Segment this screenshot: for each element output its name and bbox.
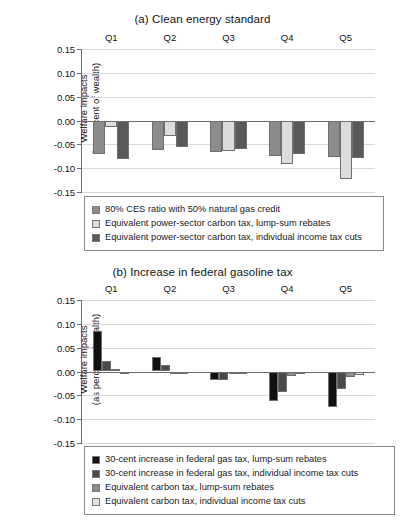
bar [355, 372, 364, 375]
bar [210, 372, 219, 381]
x-axis-category-label-q5: Q5 [339, 32, 352, 43]
bar [328, 121, 340, 157]
bar [164, 121, 176, 137]
gridline [82, 168, 375, 169]
bar [293, 121, 305, 155]
legend-label: 30-cent increase in federal gas tax, ind… [105, 467, 358, 480]
legend-swatch-icon [92, 498, 100, 506]
panel-a-title: (a) Clean energy standard [0, 13, 405, 25]
legend-item: Equivalent carbon tax, lump-sum rebates [92, 481, 387, 494]
y-axis-tick [77, 419, 82, 420]
y-axis-tick [77, 49, 82, 50]
bar [210, 121, 222, 152]
bar [161, 365, 170, 371]
y-axis-tick [77, 395, 82, 396]
legend-label: Equivalent carbon tax, individual income… [105, 495, 306, 508]
bar [117, 121, 129, 159]
bar [93, 121, 105, 154]
y-axis-title-a: Welfare impacts (as percent of wealth) [78, 34, 101, 184]
gridline [82, 192, 375, 193]
y-axis-tick-label: 0.10 [57, 318, 75, 329]
plot-area-panel-a: Welfare impacts (as percent of wealth) 0… [82, 49, 375, 192]
bar [152, 121, 164, 150]
bar [235, 121, 247, 150]
x-axis-category-label-q3: Q3 [222, 283, 235, 294]
legend-panel-a: 80% CES ratio with 50% natural gas credi… [84, 196, 384, 251]
bar [269, 372, 278, 401]
gridline [82, 419, 375, 420]
x-axis-category-label-q5: Q5 [339, 283, 352, 294]
legend-item: 80% CES ratio with 50% natural gas credi… [92, 203, 376, 216]
y-axis-tick [77, 144, 82, 145]
bar [111, 369, 120, 372]
y-axis-tick-label: 0.15 [57, 44, 75, 55]
y-axis-tick-label: 0.05 [57, 91, 75, 102]
bar [340, 121, 352, 179]
y-axis-tick-label: 0.05 [57, 342, 75, 353]
y-axis-tick-label: 0.00 [57, 366, 75, 377]
bar [238, 372, 247, 374]
plot-area-panel-b: Welfare impacts (as percent of wealth) 0… [82, 300, 375, 443]
y-axis-tick-label: 0.15 [57, 295, 75, 306]
bar [105, 121, 117, 127]
y-axis-tick [77, 97, 82, 98]
x-axis-category-label-q3: Q3 [222, 32, 235, 43]
gridline [82, 324, 375, 325]
bar [328, 372, 337, 408]
bar [287, 372, 296, 377]
bar [93, 331, 102, 371]
bar [170, 372, 179, 374]
legend-label: Equivalent carbon tax, lump-sum rebates [105, 481, 274, 494]
y-axis-tick-label: -0.10 [54, 414, 75, 425]
y-axis-tick-label: -0.15 [54, 438, 75, 449]
bar [102, 361, 111, 372]
y-axis-tick [77, 168, 82, 169]
y-axis-tick-label: -0.05 [54, 390, 75, 401]
legend-item: Equivalent power-sector carbon tax, lump… [92, 217, 376, 230]
y-axis-tick [77, 324, 82, 325]
gridline [82, 49, 375, 50]
y-axis-tick [77, 73, 82, 74]
y-axis-tick [77, 300, 82, 301]
bar [222, 121, 234, 151]
bar [179, 372, 188, 374]
x-axis-category-label-q4: Q4 [281, 283, 294, 294]
bar [229, 372, 238, 374]
bar [281, 121, 293, 165]
panel-clean-energy-standard: (a) Clean energy standard Welfare impact… [0, 0, 405, 258]
x-axis-category-label-q1: Q1 [105, 32, 118, 43]
bar [278, 372, 287, 393]
bar [352, 121, 364, 158]
legend-label: Equivalent power-sector carbon tax, lump… [105, 217, 330, 230]
figure-root: { "figure": { "y_axis_title_line1": "Wel… [0, 0, 405, 526]
legend-panel-b: 30-cent increase in federal gas tax, lum… [84, 446, 395, 515]
legend-swatch-icon [92, 206, 100, 214]
y-axis-tick [77, 192, 82, 193]
gridline [82, 348, 375, 349]
x-axis-category-label-q4: Q4 [281, 32, 294, 43]
bar [269, 121, 281, 156]
legend-item: 30-cent increase in federal gas tax, ind… [92, 467, 387, 480]
legend-item: Equivalent power-sector carbon tax, indi… [92, 231, 376, 244]
y-axis-tick [77, 443, 82, 444]
bar [337, 372, 346, 389]
legend-label: 30-cent increase in federal gas tax, lum… [105, 453, 327, 466]
bar [296, 372, 305, 375]
y-axis-tick-label: 0.10 [57, 67, 75, 78]
gridline [82, 73, 375, 74]
bar [176, 121, 188, 147]
legend-swatch-icon [92, 470, 100, 478]
gridline [82, 97, 375, 98]
legend-label: Equivalent power-sector carbon tax, indi… [105, 231, 362, 244]
legend-item: 30-cent increase in federal gas tax, lum… [92, 453, 387, 466]
y-axis-tick-label: -0.05 [54, 139, 75, 150]
gridline [82, 300, 375, 301]
y-axis-tick-label: -0.15 [54, 187, 75, 198]
legend-swatch-icon [92, 220, 100, 228]
gridline [82, 443, 375, 444]
legend-item: Equivalent carbon tax, individual income… [92, 495, 387, 508]
bar [152, 357, 161, 372]
legend-label: 80% CES ratio with 50% natural gas credi… [105, 203, 280, 216]
legend-swatch-icon [92, 484, 100, 492]
bar [120, 372, 129, 374]
